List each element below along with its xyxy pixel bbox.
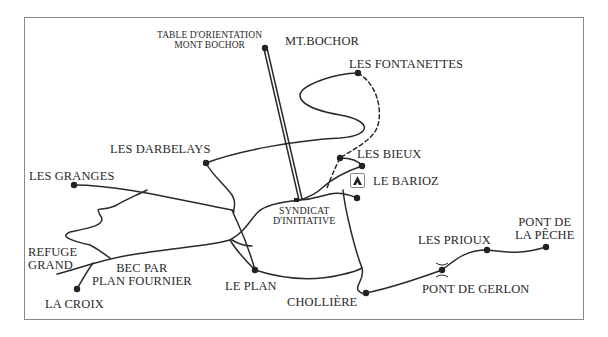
waypoint-dot-chollière [363,290,369,296]
label-table-orientation: TABLE D'ORIENTATION MONT BOCHOR [157,31,262,50]
waypoint-dot-table-orientation [262,45,268,51]
label-les-fontanettes: LES FONTANETTES [349,58,463,71]
waypoint-dot-darbelays [203,160,209,166]
label-pont-de-la-peche: PONT DE LA PÊCHE [515,216,575,241]
label-syndicat: SYNDICAT D'INITIATIVE [273,206,335,226]
cable-car-line [264,48,302,200]
label-pont-de-gerlon: PONT DE GERLON [422,283,529,296]
label-mt-bochor: MT.BOCHOR [285,35,359,48]
label-le-plan: LE PLAN [225,280,277,293]
label-bec-plan-fournier: BEC PAR PLAN FOURNIER [92,262,192,287]
label-les-prioux: LES PRIOUX [418,234,491,247]
syndicat-marker [294,198,299,202]
waypoint-dot-les-bieux [337,155,343,161]
label-le-barioz: LE BARIOZ [373,175,439,188]
waypoint-dot-la-croix [74,286,80,292]
label-refuge-grand: REFUGE GRAND [28,246,77,271]
label-les-bieux: LES BIEUX [357,148,421,161]
waypoint-dot-bieux-right [359,163,365,169]
trail-map: TABLE D'ORIENTATION MONT BOCHOR MT.BOCHO… [0,0,608,337]
waypoint-dot-pont-gerlon [439,267,445,273]
label-les-granges: LES GRANGES [29,170,114,183]
label-chollière: CHOLLIÈRE [287,296,357,309]
label-la-croix: LA CROIX [45,298,104,311]
waypoint-dot-les-prioux [484,247,490,253]
hut-icon [350,173,365,188]
label-les-darbelays: LES DARBELAYS [110,143,211,156]
waypoint-dot-le-plan [252,267,258,273]
trail-darbelays-fontanettes [206,73,364,163]
waypoint-dot-pont-peche [543,244,549,250]
waypoints [71,45,549,296]
waypoint-dot-barioz [354,195,360,201]
